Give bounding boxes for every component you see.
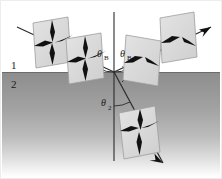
medium-1-label: 1 <box>11 59 17 71</box>
reflection-angle-symbol: θ <box>120 48 125 59</box>
refraction-angle-subscript: 2 <box>108 104 112 112</box>
figure-canvas: 1 2 θ B θ B θ 2 <box>0 0 222 179</box>
incidence-angle-subscript: B <box>104 54 109 62</box>
incidence-angle-symbol: θ <box>97 48 102 59</box>
reflection-angle-subscript: B <box>127 54 132 62</box>
medium-2-label: 2 <box>11 78 17 90</box>
lower-medium-region <box>2 72 220 177</box>
brewster-angle-figure: 1 2 θ B θ B θ 2 <box>0 0 222 179</box>
refraction-angle-symbol: θ <box>101 97 106 108</box>
refracted-plane <box>119 106 160 159</box>
reflected-plane-far <box>160 12 197 63</box>
